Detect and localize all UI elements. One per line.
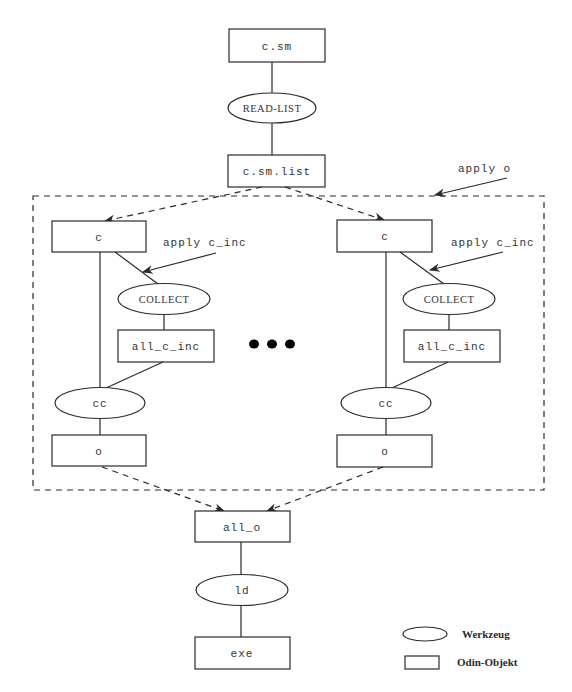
legend-odin-objekt-label: Odin-Objekt	[457, 656, 518, 668]
right-branch: c apply c_inc COLLECT all_c_inc cc o	[337, 220, 535, 467]
node-cc-left-label: cc	[92, 398, 107, 410]
node-ld: ld	[196, 575, 288, 606]
node-c-sm-label: c.sm	[262, 41, 292, 53]
node-o-right-label: o	[381, 446, 389, 458]
edge-allcinc-cc-right	[392, 362, 448, 388]
node-c-left-label: c	[95, 232, 103, 244]
legend-item-odin-objekt: Odin-Objekt	[405, 656, 518, 669]
node-exe: exe	[195, 637, 290, 669]
node-collect-right: COLLECT	[403, 284, 495, 315]
node-cc-right-label: cc	[378, 398, 393, 410]
node-collect-left-label: COLLECT	[139, 294, 190, 305]
node-all-c-inc-right-label: all_c_inc	[418, 341, 486, 353]
edge-o-left-allo	[102, 467, 224, 511]
node-cc-right: cc	[341, 388, 431, 419]
node-o-right: o	[337, 435, 432, 467]
node-c-right-label: c	[381, 231, 389, 243]
node-all-c-inc-left: all_c_inc	[118, 330, 214, 362]
node-all-c-inc-left-label: all_c_inc	[132, 341, 200, 353]
apply-c-inc-left-arrow	[143, 253, 216, 272]
node-c-sm-list: c.sm.list	[228, 155, 325, 187]
node-c-sm-list-label: c.sm.list	[243, 166, 311, 178]
legend-item-werkzeug: Werkzeug	[403, 627, 510, 641]
node-o-left: o	[52, 435, 146, 466]
node-c-right: c	[337, 220, 432, 252]
node-collect-right-label: COLLECT	[424, 294, 475, 305]
node-all-o-label: all_o	[223, 522, 261, 534]
edge-csmlist-c-right	[285, 187, 384, 220]
edge-allcinc-cc-left	[106, 362, 163, 388]
node-c-sm: c.sm	[229, 29, 325, 62]
node-o-left-label: o	[95, 446, 103, 458]
ellipsis-dots	[249, 340, 295, 349]
node-c-left: c	[52, 221, 146, 252]
legend: Werkzeug Odin-Objekt	[403, 627, 518, 669]
left-branch: c apply c_inc COLLECT all_c_inc cc o	[52, 221, 247, 466]
node-read-list-label: READ-LIST	[243, 103, 302, 114]
edge-csmlist-c-left	[105, 187, 262, 221]
node-cc-left: cc	[55, 388, 145, 419]
legend-werkzeug-label: Werkzeug	[462, 628, 510, 640]
apply-o-label: apply o	[458, 163, 511, 175]
edge-c-collect-left	[115, 252, 158, 284]
apply-c-inc-left-label: apply c_inc	[163, 237, 247, 249]
node-read-list: READ-LIST	[228, 93, 316, 123]
odin-build-diagram: c.sm READ-LIST c.sm.list apply o c apply…	[0, 0, 572, 692]
node-all-o: all_o	[195, 511, 290, 542]
node-ld-label: ld	[234, 585, 249, 597]
node-all-c-inc-right: all_c_inc	[404, 330, 500, 362]
apply-c-inc-right-arrow	[430, 252, 503, 270]
apply-o-arrow	[435, 178, 507, 195]
legend-ellipse-icon	[403, 627, 447, 641]
node-collect-left: COLLECT	[118, 284, 210, 315]
node-exe-label: exe	[231, 648, 254, 660]
legend-rectangle-icon	[405, 656, 439, 669]
apply-c-inc-right-label: apply c_inc	[451, 237, 535, 249]
edge-o-right-allo	[267, 467, 383, 511]
